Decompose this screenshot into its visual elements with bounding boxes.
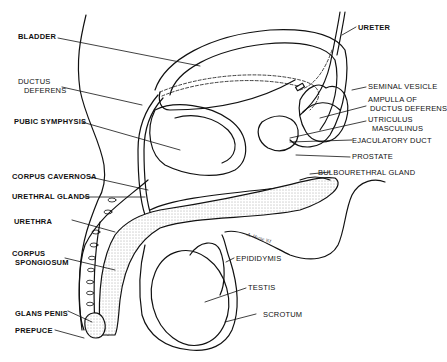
label-bulbourethral-gland: BULBOURETHRAL GLAND: [318, 169, 415, 178]
label-glans-penis: GLANS PENIS: [15, 310, 68, 319]
label-prepuce: PREPUCE: [15, 327, 53, 336]
prostate: [258, 116, 298, 151]
label-urethral-glands: URETHRAL GLANDS: [12, 193, 90, 202]
label-ejaculatory-duct: EJACULATORY DUCT: [352, 137, 432, 146]
epididymis: [190, 243, 224, 295]
label-prostate: PROSTATE: [352, 153, 393, 162]
scrotum: [140, 235, 237, 350]
label-ampulla-line2: DUCTUS DEFERENS: [370, 105, 447, 114]
label-pubic-symphysis: PUBIC SYMPHYSIS: [14, 118, 86, 127]
label-ductus-deferens-line2: DEFERENS: [24, 87, 66, 96]
label-scrotum: SCROTUM: [263, 311, 302, 320]
label-seminal-vesicle: SEMINAL VESICLE: [368, 83, 437, 92]
label-urethra: URETHRA: [14, 218, 52, 227]
glans-penis: [85, 313, 105, 338]
label-ureter: URETER: [358, 24, 390, 33]
label-testis: TESTIS: [248, 284, 275, 293]
label-corpus-cavernosa: CORPUS CAVERNOSA: [12, 173, 97, 182]
pubic-symphysis: [150, 105, 246, 176]
label-utriculus-line2: MASCULINUS: [372, 125, 423, 134]
label-bladder: BLADDER: [18, 33, 56, 42]
label-epididymis: EPIDIDYMIS: [236, 255, 281, 264]
label-corpus-spongiosum-line2: SPONGIOSUM: [15, 259, 69, 268]
seminal-vesicle: [299, 85, 348, 142]
